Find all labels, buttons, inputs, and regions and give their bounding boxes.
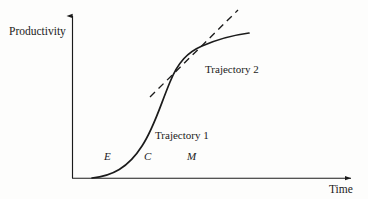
curve-label-trajectory-1: Trajectory 1 — [155, 130, 209, 141]
stage-marker-m: M — [187, 151, 196, 162]
stage-marker-c: C — [144, 151, 151, 162]
curve-label-trajectory-2: Trajectory 2 — [205, 64, 259, 75]
stage-marker-e: E — [104, 151, 111, 162]
trajectory-2-line — [150, 10, 238, 97]
productivity-time-figure: Productivity Time Trajectory 1 Trajector… — [0, 0, 368, 199]
axis-label-time: Time — [329, 184, 353, 196]
trajectory-1-curve — [92, 33, 249, 178]
axis-label-productivity: Productivity — [9, 26, 66, 38]
